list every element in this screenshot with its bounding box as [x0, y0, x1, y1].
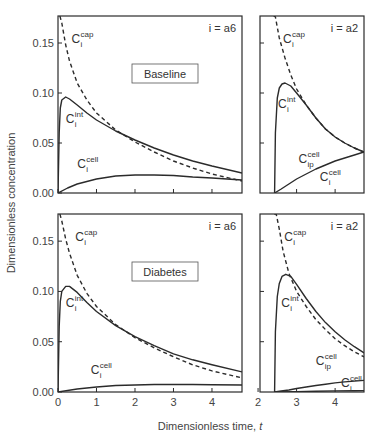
curve-label-sup: cell [100, 361, 112, 370]
curve-label: C [320, 170, 329, 184]
curve-label-sub: i [75, 120, 77, 129]
x-axis-label-text: Dimensionless time, [158, 420, 259, 432]
curve-label-sub: i [75, 304, 77, 313]
curve-label-sup: cell [329, 168, 341, 177]
series-line [58, 286, 242, 392]
curve-label-sub: i [292, 40, 294, 49]
panel-top-left: 0.000.050.100.15CcapiCintiCcellii = a6Ba… [33, 16, 242, 199]
curve-label-sub: i [329, 178, 331, 187]
x-tick-label: 4 [209, 396, 215, 408]
x-tick-label: 4 [332, 396, 338, 408]
curve-label-sub: i [84, 238, 86, 247]
curve-label-sup: cap [80, 30, 93, 39]
series-line [60, 214, 242, 378]
x-axis-variable: t [259, 420, 262, 432]
panel-bottom-right: 234CcapiCintiCcellipCcellii = a2 [255, 214, 364, 408]
panel-top-right: CcapiCintiCcellipCcellii = a2 [260, 16, 364, 193]
curve-label-sup: int [290, 294, 299, 303]
curve-label-sup: cell [308, 150, 320, 159]
y-axis-label: Dimensionless concentration [5, 128, 17, 278]
species-label: i = a6 [209, 22, 236, 34]
curve-label-sub: i [100, 371, 102, 380]
curve-label-sup: cap [84, 228, 97, 237]
y-tick-label: 0.15 [33, 37, 54, 49]
x-tick-label: 2 [255, 396, 261, 408]
curve-label-sup: cell [86, 155, 98, 164]
curve-label-sub: i [350, 384, 352, 393]
curve-label: C [299, 152, 308, 166]
curve-label: C [91, 363, 100, 377]
y-tick-label: 0.10 [33, 87, 54, 99]
curve-label-sup: cell [350, 374, 362, 383]
curve-label-sub: ip [308, 160, 315, 169]
curve-label-sub: i [293, 238, 295, 247]
curve-label: C [284, 230, 293, 244]
curve-label-sup: cap [293, 228, 306, 237]
x-tick-label: 0 [55, 396, 61, 408]
curve-label-sub: i [86, 165, 88, 174]
condition-label: Diabetes [143, 266, 187, 278]
y-tick-label: 0.15 [33, 235, 54, 247]
curve-label: C [77, 157, 86, 171]
curve-label: C [283, 32, 292, 46]
x-tick-label: 1 [93, 396, 99, 408]
curve-label: C [316, 354, 325, 368]
y-tick-label: 0.10 [33, 285, 54, 297]
curve-label-sub: i [290, 304, 292, 313]
x-axis-label: Dimensionless time, t [100, 420, 320, 432]
panel-bottom-left: 0.000.050.100.1501234CcapiCintiCcellii =… [33, 214, 242, 408]
curve-label-sup: cap [292, 30, 305, 39]
curve-label-sup: int [75, 294, 84, 303]
y-tick-label: 0.00 [33, 386, 54, 398]
x-tick-label: 2 [132, 396, 138, 408]
curve-label-sup: int [287, 95, 296, 104]
condition-label: Baseline [144, 68, 186, 80]
curve-label: C [75, 230, 84, 244]
x-tick-label: 3 [170, 396, 176, 408]
x-tick-label: 3 [294, 396, 300, 408]
curve-label-sup: int [75, 110, 84, 119]
curve-label-sub: ip [325, 362, 332, 371]
series-line [58, 385, 242, 393]
curve-label: C [341, 376, 350, 390]
curve-label: C [66, 112, 75, 126]
species-label: i = a2 [331, 220, 358, 232]
curve-label: C [71, 32, 80, 46]
curve-label: C [66, 296, 75, 310]
y-tick-label: 0.05 [33, 137, 54, 149]
curve-label: C [278, 97, 287, 111]
curve-label: C [281, 296, 290, 310]
y-tick-label: 0.05 [33, 336, 54, 348]
y-tick-label: 0.00 [33, 187, 54, 199]
figure-canvas: 0.000.050.100.15CcapiCintiCcellii = a6Ba… [0, 0, 379, 448]
species-label: i = a2 [331, 22, 358, 34]
series-line [58, 175, 242, 193]
curve-label-sub: i [287, 105, 289, 114]
species-label: i = a6 [209, 220, 236, 232]
curve-label-sub: i [80, 40, 82, 49]
curve-label-sup: cell [325, 352, 337, 361]
